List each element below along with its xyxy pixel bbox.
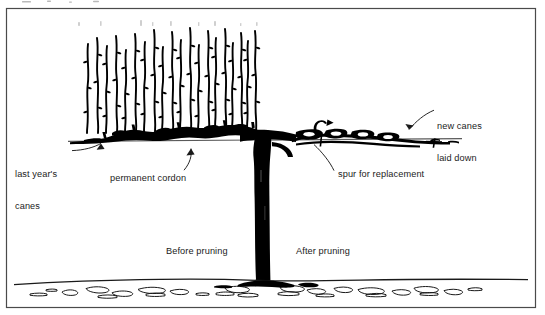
label-new-canes-laid-down: new canes laid down [437,99,482,185]
scan-artifacts [22,1,99,3]
label-last-years-canes: last year's canes [15,148,57,234]
label-last-years-canes-line1: last year's [15,169,57,180]
caption-before-pruning: Before pruning [166,246,228,257]
caption-after-pruning: After pruning [296,246,350,257]
label-new-canes-line1: new canes [437,121,482,132]
label-last-years-canes-line2: canes [15,201,57,212]
label-permanent-cordon: permanent cordon [110,173,186,184]
label-spur-for-replacement: spur for replacement [338,169,424,180]
label-new-canes-line2: laid down [437,153,482,164]
pruning-diagram-figure: last year's canes permanent cordon spur … [0,0,545,315]
